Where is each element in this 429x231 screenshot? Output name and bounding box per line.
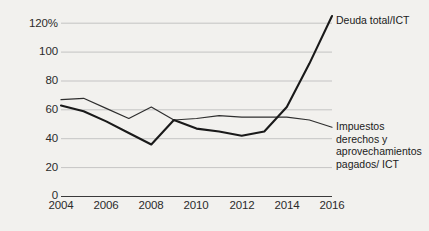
x-axis-tick-2012: 2012 [219, 199, 265, 211]
series-label-deuda: Deuda total/ICT [336, 14, 410, 27]
chart-figure: 120% 100 80 60 40 20 0 2004 2006 2008 20… [0, 0, 429, 231]
x-axis-tick-2014: 2014 [264, 199, 310, 211]
x-axis-tick-2006: 2006 [83, 199, 129, 211]
series-label-impuestos-line-2: derechos y [336, 133, 422, 146]
x-axis-tick-2016: 2016 [309, 199, 355, 211]
x-axis-tick-2010: 2010 [173, 199, 219, 211]
series-label-impuestos-line-1: Impuestos [336, 120, 422, 133]
series-label-impuestos: Impuestos derechos y aprovechamientos pa… [336, 120, 422, 170]
gridlines [61, 23, 332, 167]
series-line-impuestos [61, 98, 332, 127]
series-label-impuestos-line-3: aprovechamientos [336, 145, 422, 158]
series-line-deuda [61, 16, 332, 145]
plot-area [0, 0, 429, 231]
x-axis-tick-2008: 2008 [128, 199, 174, 211]
x-axis-tick-2004: 2004 [38, 199, 84, 211]
series-label-impuestos-line-4: pagados/ ICT [336, 158, 422, 171]
